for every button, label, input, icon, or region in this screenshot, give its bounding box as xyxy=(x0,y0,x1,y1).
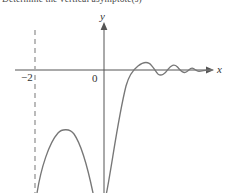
origin-label: 0 xyxy=(92,73,98,84)
curve-left-branch xyxy=(37,130,93,193)
graph-figure: Determine the vertical asymptote(s) y x … xyxy=(0,0,230,193)
y-axis xyxy=(101,22,108,193)
y-axis-label: y xyxy=(100,11,105,22)
plot-canvas xyxy=(0,0,230,193)
curve-right-branch xyxy=(107,62,213,193)
x-axis-label: x xyxy=(217,64,222,75)
x-tick-label-neg2: −2 xyxy=(21,72,33,83)
y-axis-arrowhead xyxy=(101,22,108,30)
